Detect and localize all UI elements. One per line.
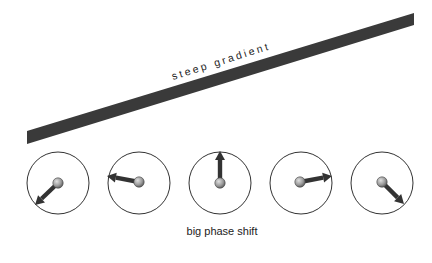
phasor-4 [270,152,332,214]
diagram-svg: steep gradient big phase shift [0,0,432,263]
phasor-3 [189,151,251,214]
phasor-2 [107,152,170,214]
pivot-ball [134,177,144,187]
phase-diagram: steep gradient big phase shift [0,0,432,263]
phasor-1 [27,152,89,214]
pivot-ball [377,177,387,187]
pivot-ball [215,178,225,188]
pivot-ball [295,177,305,187]
caption-big-phase-shift: big phase shift [187,225,258,237]
pivot-ball [53,178,63,188]
phasor-row [27,151,413,214]
steep-gradient-bar [27,13,414,144]
phasor-5 [351,152,413,214]
